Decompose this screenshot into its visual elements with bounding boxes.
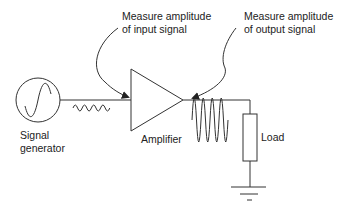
ground-icon [231, 187, 266, 200]
output-note-line2: of output signal [244, 23, 315, 35]
input-note-line1: Measure amplitude [122, 10, 211, 22]
input-measure-arrow [96, 28, 128, 97]
input-note-line2: of input signal [122, 23, 187, 35]
signal-generator [16, 78, 60, 122]
load-resistor [243, 114, 257, 161]
output-note-line1: Measure amplitude [244, 10, 333, 22]
amplifier-triangle [131, 69, 183, 131]
amplifier-label: Amplifier [141, 133, 182, 145]
output-measure-arrow [193, 28, 236, 98]
input-waveform [73, 105, 110, 111]
signal-generator-label-line1: Signal [20, 129, 49, 141]
amplifier-diagram: Measure amplitude of input signal Measur… [0, 0, 349, 215]
load-label: Load [261, 131, 285, 143]
output-waveform [192, 98, 228, 142]
signal-generator-label-line2: generator [20, 142, 65, 154]
sine-wave-icon [25, 83, 51, 116]
